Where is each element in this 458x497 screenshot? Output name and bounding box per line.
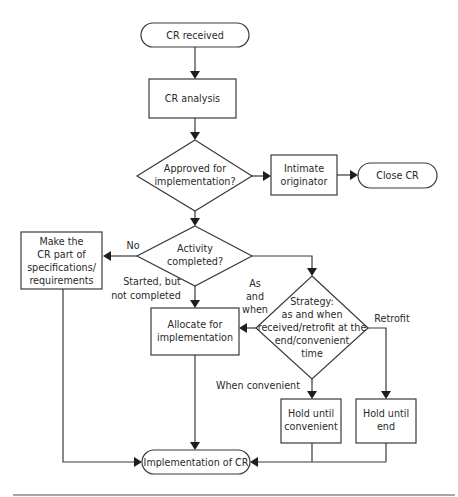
- arrow-head: [307, 268, 317, 276]
- label-and: and: [246, 291, 264, 302]
- node-label: Hold until: [288, 408, 334, 419]
- node-close-cr: Close CR: [358, 163, 437, 188]
- label-no: No: [126, 240, 139, 251]
- node-label: CR part of: [37, 249, 86, 260]
- node-label: originator: [281, 176, 328, 187]
- arrow-head: [134, 457, 142, 467]
- label-retrofit: Retrofit: [374, 313, 410, 324]
- arrow-head: [263, 171, 271, 181]
- node-label: as and when: [282, 309, 343, 320]
- node-label: Close CR: [376, 170, 419, 181]
- node-implementation: Implementation of CR: [142, 450, 250, 474]
- edge-make-part-implementation: [63, 289, 135, 462]
- node-label: implementation?: [154, 176, 235, 187]
- node-label: requirements: [29, 275, 93, 286]
- node-label: implementation: [157, 332, 233, 343]
- node-label: CR received: [166, 30, 224, 41]
- label-when-convenient: When convenient: [216, 380, 300, 391]
- node-label: Activity: [177, 243, 213, 254]
- arrow-head: [103, 251, 111, 261]
- edge-strategy-hold-end: [368, 328, 386, 392]
- node-label: Hold until: [363, 408, 409, 419]
- arrow-head: [350, 170, 358, 180]
- node-label: completed?: [167, 256, 223, 267]
- arrow-head: [190, 442, 200, 450]
- node-cr-received: CR received: [141, 23, 249, 47]
- node-cr-analysis: CR analysis: [149, 79, 236, 118]
- node-label: Strategy:: [290, 296, 334, 307]
- label-when: when: [242, 304, 268, 315]
- node-label: end/convenient: [275, 335, 350, 346]
- node-allocate: Allocate for implementation: [151, 308, 239, 355]
- node-approved-decision: Approved for implementation?: [137, 140, 252, 211]
- node-label: specifications/: [27, 262, 97, 273]
- node-strategy-decision: Strategy: as and when received/retrofit …: [256, 276, 368, 379]
- label-not-completed: not completed: [111, 290, 181, 301]
- node-label: Allocate for: [168, 319, 223, 330]
- label-started: Started, but: [123, 276, 181, 287]
- flowchart: CR received CR analysis Approved for imp…: [0, 0, 458, 497]
- node-label: CR analysis: [165, 93, 220, 104]
- node-label: Make the: [39, 236, 83, 247]
- node-label: Implementation of CR: [144, 457, 249, 468]
- arrow-head: [190, 71, 200, 79]
- node-label: time: [301, 348, 323, 359]
- node-hold-until-end: Hold until end: [356, 399, 416, 443]
- arrow-head: [239, 323, 247, 333]
- node-hold-until-convenient: Hold until convenient: [281, 399, 341, 443]
- node-label: convenient: [284, 421, 338, 432]
- node-label: received/retrofit at the: [258, 322, 367, 333]
- arrow-head: [307, 391, 317, 399]
- arrow-head: [381, 391, 391, 399]
- node-intimate-originator: Intimate originator: [271, 155, 337, 195]
- node-label: Approved for: [164, 163, 226, 174]
- arrow-head: [190, 132, 200, 140]
- node-label: end: [377, 421, 395, 432]
- edge-activity-strategy: [252, 256, 312, 269]
- arrow-head: [190, 218, 200, 226]
- arrow-head: [190, 300, 200, 308]
- node-label: Intimate: [284, 163, 324, 174]
- arrow-head: [250, 457, 258, 467]
- node-make-part-of-specs: Make the CR part of specifications/ requ…: [21, 232, 102, 289]
- label-as: As: [249, 278, 261, 289]
